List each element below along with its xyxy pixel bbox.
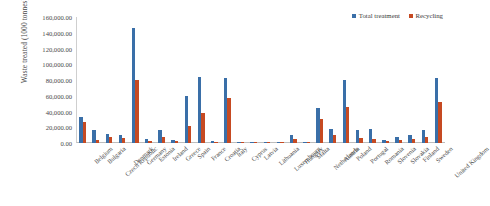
y-tick-label: 160,000.00 — [42, 14, 72, 21]
bar-recycling — [201, 113, 204, 143]
y-tick-label: 100,000.00 — [42, 61, 72, 68]
bar-group — [221, 17, 234, 143]
y-tick-label: 20,000.00 — [46, 124, 72, 131]
bar-group — [287, 17, 300, 143]
bar-group — [379, 17, 392, 143]
bar-group — [181, 17, 194, 143]
plot-area: 160,000.00140,000.00120,000.00100,000.00… — [76, 17, 445, 143]
bar-recycling — [412, 139, 415, 143]
bar-recycling — [333, 135, 336, 143]
bar-recycling — [175, 141, 178, 143]
y-tick-label: 80,000.00 — [46, 77, 72, 84]
y-tick-label: 140,000.00 — [42, 29, 72, 36]
bar-recycling — [267, 142, 270, 143]
bar-recycling — [135, 80, 138, 143]
bar-recycling — [293, 139, 296, 143]
bar-group — [116, 17, 129, 143]
bar-recycling — [425, 137, 428, 143]
bar-recycling — [227, 98, 230, 143]
bar-group — [405, 17, 418, 143]
y-tick-label: 40,000.00 — [46, 108, 72, 115]
legend-item[interactable]: Recycling — [409, 12, 443, 19]
y-axis-title: Waste treated (1000 tonnes) — [20, 0, 29, 111]
bar-group — [129, 17, 142, 143]
bar-recycling — [109, 137, 112, 143]
bar-recycling — [320, 119, 323, 143]
bar-recycling — [386, 141, 389, 143]
bar-recycling — [438, 102, 441, 143]
bar-group — [260, 17, 273, 143]
bar-recycling — [96, 140, 99, 143]
bar-group — [392, 17, 405, 143]
bar-recycling — [346, 107, 349, 143]
bar-recycling — [280, 142, 283, 143]
bar-group — [432, 17, 445, 143]
bar-group — [418, 17, 431, 143]
bar-recycling — [122, 138, 125, 143]
bar-group — [168, 17, 181, 143]
bar-recycling — [83, 122, 86, 143]
y-tick-label: 60,000.00 — [46, 92, 72, 99]
bar-group — [274, 17, 287, 143]
bar-group — [142, 17, 155, 143]
bar-recycling — [148, 141, 151, 143]
bar-recycling — [307, 142, 310, 143]
x-axis-tick-labels: BelgiumBulgariaCzech RepublicDenmarkGerm… — [76, 145, 445, 205]
bars-layer — [76, 17, 445, 143]
bar-recycling — [399, 140, 402, 143]
bar-group — [155, 17, 168, 143]
bar-recycling — [214, 142, 217, 143]
bar-recycling — [359, 138, 362, 143]
bar-group — [339, 17, 352, 143]
bar-recycling — [254, 142, 257, 143]
bar-recycling — [188, 126, 191, 143]
bar-recycling — [372, 139, 375, 143]
chart-legend: Total treatmentRecycling — [352, 12, 443, 19]
legend-label: Total treatment — [359, 12, 400, 19]
bar-group — [89, 17, 102, 143]
bar-group — [195, 17, 208, 143]
legend-swatch-icon — [409, 14, 413, 18]
bar-group — [313, 17, 326, 143]
bar-group — [326, 17, 339, 143]
bar-group — [234, 17, 247, 143]
bar-group — [353, 17, 366, 143]
bar-group — [247, 17, 260, 143]
bar-group — [102, 17, 115, 143]
x-tick-label: United Kingdom — [453, 145, 490, 179]
y-tick-label: 0.00 — [60, 140, 72, 147]
bar-group — [76, 17, 89, 143]
bar-recycling — [162, 137, 165, 143]
legend-item[interactable]: Total treatment — [352, 12, 400, 19]
bar-recycling — [241, 142, 244, 143]
legend-swatch-icon — [352, 14, 356, 18]
bar-group — [300, 17, 313, 143]
y-tick-label: 120,000.00 — [42, 45, 72, 52]
bar-group — [208, 17, 221, 143]
legend-label: Recycling — [415, 12, 443, 19]
bar-group — [366, 17, 379, 143]
